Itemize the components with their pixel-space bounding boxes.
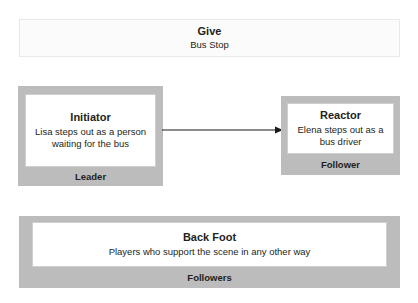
reactor-inner-panel: Reactor Elena steps out as a bus driver (287, 103, 394, 154)
initiator-inner-panel: Initiator Lisa steps out as a person wai… (25, 94, 156, 167)
reactor-description: Elena steps out as a bus driver (294, 124, 387, 148)
back-foot-description: Players who support the scene in any oth… (109, 246, 311, 258)
give-description: Bus Stop (190, 39, 229, 51)
initiator-box: Initiator Lisa steps out as a person wai… (18, 86, 163, 186)
give-banner: Give Bus Stop (19, 19, 400, 57)
initiator-title: Initiator (70, 111, 110, 124)
reactor-box: Reactor Elena steps out as a bus driver … (281, 96, 400, 175)
initiator-role-bar: Leader (25, 167, 156, 186)
back-foot-title: Back Foot (183, 231, 236, 244)
reactor-title: Reactor (320, 109, 361, 122)
back-foot-box: Back Foot Players who support the scene … (19, 216, 400, 288)
back-foot-inner-panel: Back Foot Players who support the scene … (32, 222, 387, 267)
initiator-description: Lisa steps out as a person waiting for t… (34, 126, 147, 150)
back-foot-role-bar: Followers (32, 267, 387, 288)
reactor-role-label: Follower (321, 159, 360, 170)
back-foot-role-label: Followers (187, 272, 231, 283)
initiator-role-label: Leader (75, 171, 106, 182)
give-title: Give (198, 25, 222, 38)
initiator-to-reactor-arrow-icon (162, 122, 284, 138)
reactor-role-bar: Follower (287, 154, 394, 175)
